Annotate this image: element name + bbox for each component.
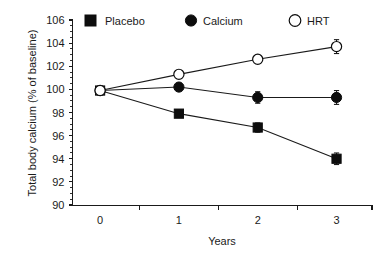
x-tick-label: 1	[176, 214, 182, 226]
y-axis-ticks	[69, 20, 73, 205]
x-tick-label: 2	[255, 214, 261, 226]
x-axis-tick-labels: 0123	[97, 214, 340, 226]
data-point-placebo	[174, 109, 183, 118]
legend-marker-hrt	[289, 15, 301, 27]
legend-label-hrt: HRT	[307, 15, 330, 27]
x-tick-label: 3	[333, 214, 339, 226]
legend-marker-placebo	[85, 15, 96, 26]
series-markers	[95, 41, 342, 163]
y-axis-tick-labels: 9092949698100102104106	[46, 14, 64, 211]
data-point-placebo	[332, 154, 341, 163]
y-tick-label: 104	[46, 37, 64, 49]
data-point-hrt	[95, 85, 105, 95]
legend-label-calcium: Calcium	[203, 15, 243, 27]
series-line-placebo	[100, 91, 336, 159]
legend-label-placebo: Placebo	[105, 15, 145, 27]
chart-figure: Placebo Calcium HRT 90929496981001021041…	[0, 0, 391, 256]
series-lines	[100, 47, 336, 159]
x-axis-title: Years	[208, 235, 236, 247]
y-tick-label: 100	[46, 83, 64, 95]
data-point-placebo	[253, 123, 262, 132]
chart-legend: Placebo Calcium HRT	[85, 15, 330, 27]
y-axis-title: Total body calcium (% of baseline)	[26, 30, 38, 197]
y-tick-label: 102	[46, 60, 64, 72]
legend-marker-calcium	[185, 15, 196, 26]
data-point-calcium	[331, 92, 341, 102]
data-point-calcium	[174, 82, 184, 92]
data-point-hrt	[174, 69, 184, 79]
y-tick-label: 106	[46, 14, 64, 26]
y-tick-label: 92	[52, 176, 64, 188]
y-tick-label: 94	[52, 153, 64, 165]
series-line-calcium	[100, 87, 336, 97]
y-tick-label: 98	[52, 107, 64, 119]
line-chart: Placebo Calcium HRT 90929496981001021041…	[0, 0, 391, 256]
data-point-hrt	[253, 54, 263, 64]
series-line-hrt	[100, 47, 336, 91]
y-tick-label: 96	[52, 130, 64, 142]
data-point-calcium	[253, 92, 263, 102]
data-point-hrt	[331, 41, 341, 51]
y-tick-label: 90	[52, 199, 64, 211]
x-tick-label: 0	[97, 214, 103, 226]
